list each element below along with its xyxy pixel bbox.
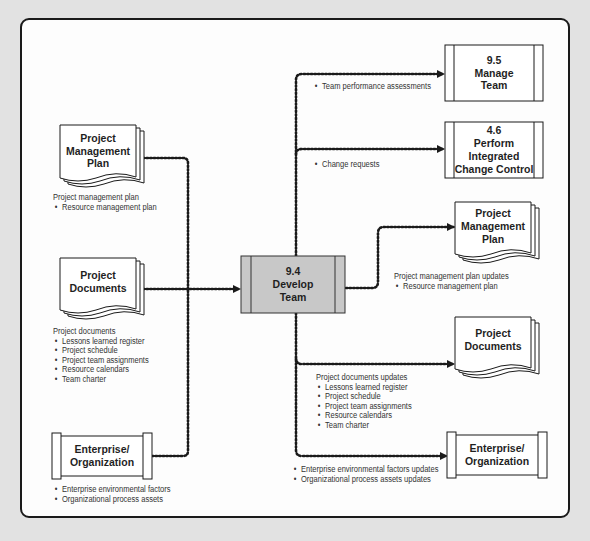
- input-label-docs: Project documents Lessons learned regist…: [53, 327, 149, 385]
- label-item: Organizational process assets: [53, 495, 171, 505]
- process-node-develop-team[interactable]: 9.4 Develop Team: [251, 256, 335, 313]
- output-node-manage-team[interactable]: 9.5 Manage Team: [454, 45, 534, 101]
- input-label-pmp: Project management plan Resource managem…: [53, 193, 157, 212]
- input-node-enterprise-organization[interactable]: Enterprise/ Organization: [61, 436, 143, 476]
- input-node-project-management-plan[interactable]: Project Management Plan: [60, 127, 136, 175]
- input-label-eef: Enterprise environmental factors Organiz…: [53, 485, 171, 504]
- input-node-project-documents[interactable]: Project Documents: [60, 260, 136, 304]
- output-node-change-control[interactable]: 4.6 Perform Integrated Change Control: [454, 122, 534, 178]
- output-label-pmp: Project management plan updates Resource…: [394, 272, 509, 291]
- connector-output-docs-branch: [296, 358, 454, 364]
- output-label-manage-team: Team performance assessments: [313, 82, 431, 92]
- label-item: Resource management plan: [53, 203, 157, 213]
- connector-input-pmp: [143, 158, 188, 289]
- output-label-change-control: Change requests: [313, 160, 379, 170]
- label-item: Team charter: [316, 421, 412, 431]
- label-item: Change requests: [313, 160, 379, 170]
- label-item: Resource management plan: [394, 282, 509, 292]
- connector-output-change-control: [296, 149, 444, 154]
- label-item: Team performance assessments: [313, 82, 431, 92]
- label-item: Organizational process assets updates: [292, 475, 438, 485]
- output-label-docs: Project documents updates Lessons learne…: [316, 373, 412, 431]
- output-node-enterprise-organization[interactable]: Enterprise/ Organization: [456, 435, 538, 475]
- output-label-eef: Enterprise environmental factors updates…: [292, 465, 438, 484]
- output-node-project-management-plan[interactable]: Project Management Plan: [455, 204, 531, 249]
- output-node-project-documents[interactable]: Project Documents: [455, 318, 531, 362]
- connector-input-eef: [152, 289, 188, 456]
- label-item: Team charter: [53, 375, 149, 385]
